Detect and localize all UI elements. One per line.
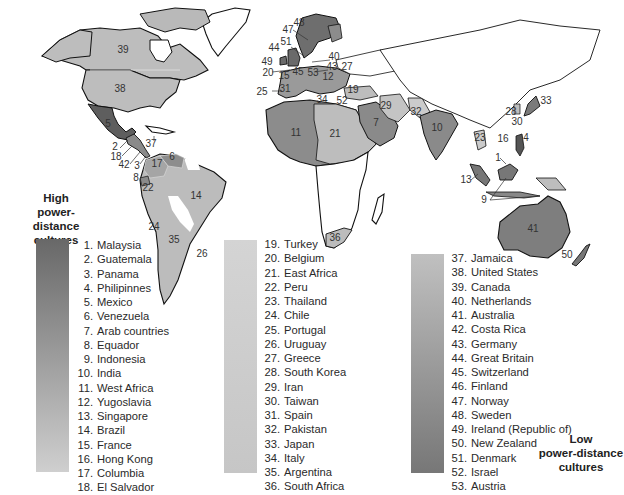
legend-item-number: 17. (73, 466, 93, 480)
legend-item: 25.Portugal (260, 323, 346, 337)
legend-item-name: West Africa (97, 382, 153, 394)
map-label: 4 (523, 132, 529, 143)
legend-item-number: 50. (447, 436, 467, 450)
legend-item: 39.Canada (447, 280, 572, 294)
legend-item-number: 5. (73, 295, 93, 309)
legend-item-number: 28. (260, 365, 280, 379)
legend-item: 43.Germany (447, 337, 572, 351)
legend-item-name: Thailand (284, 295, 327, 307)
legend-item-name: Australia (471, 309, 515, 321)
legend-item-number: 7. (73, 324, 93, 338)
gradient-bar-high (36, 239, 69, 472)
legend-item-name: Chile (284, 309, 310, 321)
legend-item-number: 36. (260, 479, 280, 493)
map-label: 27 (341, 61, 353, 72)
legend-item-number: 21. (260, 266, 280, 280)
legend-item-number: 20. (260, 251, 280, 265)
legend-item-name: Iran (284, 381, 303, 393)
map-label: 12 (322, 71, 334, 82)
legend-item-number: 32. (260, 422, 280, 436)
legend-item-number: 33. (260, 437, 280, 451)
legend-item-number: 29. (260, 380, 280, 394)
legend-item-name: Israel (471, 466, 498, 478)
region-greenland (202, 8, 250, 56)
legend-list-high: 1.Malaysia2.Guatemala3.Panama4.Philipinn… (73, 238, 169, 495)
legend-item-number: 44. (447, 351, 467, 365)
legend-item-name: Switzerland (471, 366, 529, 378)
map-label: 26 (196, 248, 208, 259)
map-label: 15 (278, 70, 290, 81)
legend-item: 1.Malaysia (73, 238, 169, 252)
legend-item: 26.Uruguay (260, 337, 346, 351)
map-label: 21 (329, 128, 341, 139)
legend-item-name: Columbia (97, 467, 144, 479)
legend-item-name: Denmark (471, 452, 516, 464)
legend-item-name: Belgium (284, 252, 324, 264)
legend-item-name: Portugal (284, 324, 326, 336)
legend-item-number: 49. (447, 422, 467, 436)
legend-item: 28.South Korea (260, 365, 346, 379)
legend-item-number: 43. (447, 337, 467, 351)
legend-item: 10.India (73, 366, 169, 380)
legend-item: 38.United States (447, 265, 572, 279)
map-label: 19 (347, 84, 359, 95)
legend-item-number: 34. (260, 451, 280, 465)
legend-item: 11.West Africa (73, 381, 169, 395)
map-label: 42 (118, 159, 130, 170)
legend-item-number: 23. (260, 294, 280, 308)
legend-item-number: 4. (73, 281, 93, 295)
legend-item-name: Yugoslavia (97, 396, 151, 408)
legend-item-number: 19. (260, 237, 280, 251)
legend-item-name: Peru (284, 281, 308, 293)
legend-item-name: Indonesia (97, 353, 146, 365)
legend-item-name: Finland (471, 380, 508, 392)
legend-item-number: 24. (260, 308, 280, 322)
legend-item-name: Great Britain (471, 352, 534, 364)
legend-item: 24.Chile (260, 308, 346, 322)
map-label: 30 (511, 116, 523, 127)
region-sumatra (470, 164, 490, 186)
heading-line: power-distance (538, 446, 624, 460)
legend-item-name: Austria (471, 480, 506, 492)
legend-item: 53.Austria (447, 479, 572, 493)
legend-item-name: South Africa (284, 480, 344, 492)
region-madagascar (372, 194, 384, 224)
legend-item-name: Sweden (471, 409, 511, 421)
legend-item-name: El Salvador (97, 481, 154, 493)
map-label: 22 (142, 182, 154, 193)
map-label: 35 (168, 234, 180, 245)
legend-item-name: Turkey (284, 238, 318, 250)
map-label: 31 (279, 83, 291, 94)
legend-item-name: Equador (97, 339, 139, 351)
legend-item: 29.Iran (260, 380, 346, 394)
legend-item: 6.Venezuela (73, 309, 169, 323)
map-label: 41 (527, 223, 539, 234)
legend-item-number: 47. (447, 394, 467, 408)
legend-item: 5.Mexico (73, 295, 169, 309)
legend-item: 45.Switzerland (447, 365, 572, 379)
legend-item: 7.Arab countries (73, 324, 169, 338)
map-label: 3 (134, 160, 140, 171)
legend-item-name: France (97, 439, 132, 451)
legend-item-name: Germany (471, 338, 517, 350)
legend-item-number: 11. (73, 381, 93, 395)
legend-item-number: 3. (73, 267, 93, 281)
legend-item-name: South Korea (284, 366, 346, 378)
legend-item-name: United States (471, 266, 538, 278)
legend-item-name: Japan (284, 438, 314, 450)
legend-item: 36.South Africa (260, 479, 346, 493)
legend-item-name: Hong Kong (97, 453, 153, 465)
legend-item-name: Canada (471, 281, 510, 293)
map-label: 1 (495, 152, 501, 163)
gradient-bar-low (411, 254, 444, 473)
region-new-guinea (536, 178, 566, 190)
map-label: 34 (316, 94, 328, 105)
region-finland (328, 24, 342, 42)
legend-item: 3.Panama (73, 267, 169, 281)
legend-item-name: Arab countries (97, 325, 169, 337)
legend-item-number: 1. (73, 238, 93, 252)
legend-item: 31.Spain (260, 408, 346, 422)
legend-item: 13.Singapore (73, 409, 169, 423)
region-indonesia-east (486, 192, 540, 198)
low-power-distance-heading: Low power-distance cultures (538, 432, 624, 474)
